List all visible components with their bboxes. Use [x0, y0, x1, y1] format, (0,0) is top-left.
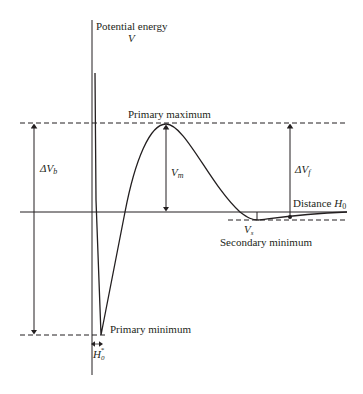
- delta-vb-label: ΔVb: [39, 162, 57, 176]
- secondary-minimum-label: Secondary minimum: [220, 236, 312, 248]
- distance-label: Distance H0: [293, 197, 346, 211]
- primary-maximum-label: Primary maximum: [128, 108, 211, 120]
- primary-minimum-label: Primary minimum: [110, 323, 191, 335]
- h0-star-label: H0*: [92, 346, 105, 362]
- y-axis-symbol: V: [128, 32, 136, 44]
- vm-label: Vm: [171, 166, 184, 180]
- delta-vf-label: ΔVf: [294, 163, 312, 177]
- dlvo-potential-energy-diagram: Potential energy V Primary maximum Prima…: [0, 0, 363, 394]
- vs-label: Vs: [244, 223, 254, 237]
- delta-vf-dot: [288, 215, 292, 219]
- y-axis-title: Potential energy: [96, 20, 168, 32]
